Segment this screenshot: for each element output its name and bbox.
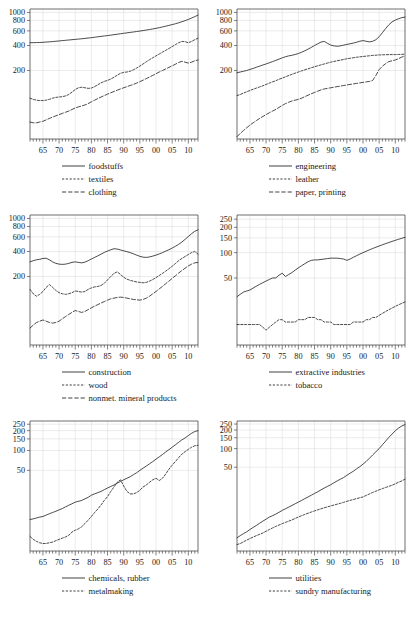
legend-label: extractive industries — [296, 367, 366, 377]
x-tick-label: 90 — [120, 558, 128, 567]
x-tick-label: 75 — [71, 558, 79, 567]
small-multiples-figure: 100080060040020065707580859095000510food… — [0, 0, 414, 618]
legend-label: construction — [89, 367, 132, 377]
gridlines — [30, 9, 198, 139]
y-tick-label: 100 — [220, 445, 232, 454]
x-tick-label: 85 — [103, 146, 111, 155]
y-tick-label: 400 — [13, 41, 25, 50]
series-line — [237, 17, 405, 73]
x-tick-label: 10 — [391, 146, 399, 155]
x-tick-label: 75 — [278, 146, 286, 155]
x-tick-label: 95 — [343, 352, 351, 361]
x-tick-label: 65 — [246, 558, 254, 567]
x-tick-label: 00 — [359, 146, 367, 155]
x-tick-label: 65 — [39, 352, 47, 361]
x-tick-label: 65 — [39, 146, 47, 155]
x-tick-label: 00 — [152, 146, 160, 155]
chart-panel-top-right: 100080060040020065707580859095000510engi… — [207, 0, 414, 206]
chart-canvas-bottom-right: 2502001501005065707580859095000510utilit… — [207, 412, 414, 618]
x-tick-label: 85 — [310, 558, 318, 567]
x-tick-label: 10 — [184, 558, 192, 567]
chart-canvas-middle-right: 2502001501005065707580859095000510extrac… — [207, 206, 414, 412]
y-tick-label: 200 — [220, 66, 232, 75]
x-tick-label: 10 — [184, 352, 192, 361]
x-tick-label: 85 — [103, 558, 111, 567]
series-group — [237, 17, 405, 137]
x-tick-label: 10 — [391, 558, 399, 567]
y-axis: 25020015010050 — [220, 215, 237, 283]
legend: utilitiessundry manufacturing — [269, 573, 372, 596]
y-tick-label: 200 — [13, 272, 25, 281]
x-tick-label: 00 — [359, 558, 367, 567]
series-group — [30, 15, 198, 123]
series-line — [237, 425, 405, 538]
series-line — [30, 431, 198, 520]
x-tick-label: 85 — [103, 352, 111, 361]
legend-label: foodstuffs — [89, 161, 124, 171]
gridlines — [237, 9, 405, 139]
x-tick-label: 65 — [246, 352, 254, 361]
plot-frame — [237, 421, 405, 551]
plot-frame — [30, 9, 198, 139]
x-tick-label: 70 — [55, 558, 63, 567]
series-line — [30, 445, 198, 543]
y-tick-label: 800 — [13, 16, 25, 25]
y-tick-label: 400 — [13, 247, 25, 256]
x-axis: 65707580859095000510 — [237, 139, 405, 155]
x-tick-label: 00 — [152, 558, 160, 567]
y-tick-label: 600 — [220, 27, 232, 36]
y-tick-label: 100 — [13, 446, 25, 455]
legend-label: metalmaking — [89, 586, 135, 596]
plot-frame — [30, 215, 198, 345]
gridlines — [30, 215, 198, 345]
series-line — [237, 237, 405, 296]
y-tick-label: 100 — [220, 249, 232, 258]
legend-label: utilities — [296, 573, 322, 583]
x-tick-label: 90 — [327, 558, 335, 567]
y-tick-label: 800 — [220, 16, 232, 25]
gridlines — [237, 215, 405, 345]
gridlines — [30, 421, 198, 551]
y-axis: 25020015010050 — [13, 420, 30, 475]
plot-frame — [237, 9, 405, 139]
chart-panel-bottom-left: 2502001501005065707580859095000510chemic… — [0, 412, 207, 618]
x-tick-label: 65 — [39, 558, 47, 567]
legend: foodstuffstextilesclothing — [62, 161, 124, 197]
chart-panel-bottom-right: 2502001501005065707580859095000510utilit… — [207, 412, 414, 618]
x-axis: 65707580859095000510 — [237, 551, 405, 567]
x-tick-label: 00 — [152, 352, 160, 361]
y-axis: 1000800600400200 — [216, 8, 237, 75]
x-axis: 65707580859095000510 — [30, 551, 198, 567]
x-tick-label: 10 — [184, 146, 192, 155]
y-tick-label: 800 — [13, 222, 25, 231]
legend: constructionwoodnonmet. mineral products — [62, 367, 177, 403]
series-group — [30, 230, 198, 328]
chart-canvas-top-right: 100080060040020065707580859095000510engi… — [207, 0, 414, 206]
chart-panel-middle-right: 2502001501005065707580859095000510extrac… — [207, 206, 414, 412]
chart-canvas-bottom-left: 2502001501005065707580859095000510chemic… — [0, 412, 207, 618]
x-tick-label: 90 — [327, 146, 335, 155]
x-tick-label: 75 — [71, 352, 79, 361]
series-line — [237, 302, 405, 330]
x-tick-label: 05 — [168, 352, 176, 361]
x-tick-label: 95 — [136, 352, 144, 361]
y-tick-label: 50 — [17, 466, 25, 475]
legend-label: sundry manufacturing — [296, 586, 372, 596]
x-tick-label: 80 — [87, 558, 95, 567]
y-tick-label: 200 — [220, 223, 232, 232]
y-tick-label: 200 — [13, 66, 25, 75]
x-tick-label: 95 — [136, 558, 144, 567]
x-tick-label: 70 — [55, 146, 63, 155]
x-axis: 65707580859095000510 — [237, 345, 405, 361]
plot-frame — [30, 421, 198, 551]
x-tick-label: 70 — [55, 352, 63, 361]
legend-label: tobacco — [296, 380, 323, 390]
y-tick-label: 150 — [220, 434, 232, 443]
x-tick-label: 95 — [343, 146, 351, 155]
x-tick-label: 75 — [278, 558, 286, 567]
y-tick-label: 150 — [13, 435, 25, 444]
x-tick-label: 75 — [278, 352, 286, 361]
chart-panel-middle-left: 100080060040020065707580859095000510cons… — [0, 206, 207, 412]
legend-label: leather — [296, 174, 320, 184]
series-line — [30, 230, 198, 265]
